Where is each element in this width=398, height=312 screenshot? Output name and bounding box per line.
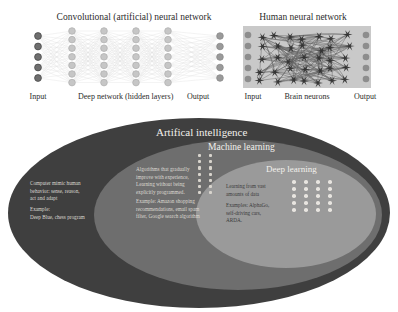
deep-learning-label: Deep learning [266, 164, 317, 174]
artificial-intelligence-label: Artifical intelligence [156, 126, 247, 138]
figure-canvas: Convolutional (artificial) neural networ… [0, 0, 398, 312]
ai-description-text: Computer mimic human behavior: sense, re… [30, 180, 110, 203]
dl-node-grid [292, 180, 336, 212]
hnn-diagram-title: Human neural network [248, 12, 358, 22]
cnn-network-graphic [30, 26, 230, 88]
hnn-neurons-label: Brain neurons [272, 92, 342, 101]
cnn-hidden-label: Deep network (hidden layers) [78, 92, 164, 101]
hnn-output-label: Output [342, 92, 388, 101]
ml-node-grid [198, 154, 215, 194]
ml-example-text: Example: Amazon shopping recommendations… [136, 198, 218, 221]
dl-description-text: Learning from vast amounts of data [226, 183, 296, 198]
ai-example-text: Example: Deep Blue, chess program [30, 206, 110, 221]
machine-learning-label: Machine learning [208, 142, 275, 152]
human-neural-network-graphic [243, 26, 371, 88]
cnn-output-label: Output [170, 92, 226, 101]
dl-example-text: Examples: AlphaGo, self-driving cars, AR… [226, 202, 296, 225]
ai-ml-dl-venn-diagram: Artifical intelligence Machine learning … [8, 118, 390, 308]
cnn-diagram-title: Convolutional (artificial) neural networ… [34, 12, 234, 22]
hnn-input-label: Input [232, 92, 274, 101]
cnn-input-label: Input [10, 92, 66, 101]
